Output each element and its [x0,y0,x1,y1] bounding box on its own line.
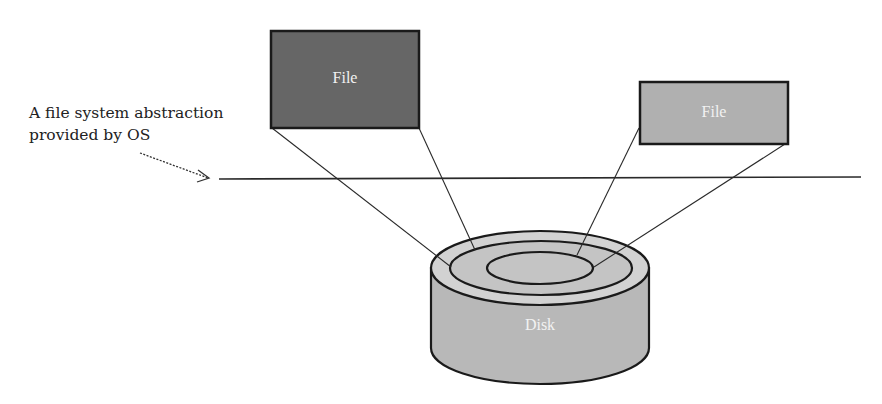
disk-label: Disk [490,316,590,334]
mapping-line [419,128,475,250]
disk-cylinder [431,231,649,384]
annotation-label-line2: provided by OS [29,125,150,146]
file-label-light: File [639,103,789,121]
annotation-label-line1: A file system abstraction [29,103,223,124]
diagram-canvas [0,0,882,404]
file-label-dark: File [270,69,420,87]
dotted-arrow-icon [140,153,209,182]
disk-track-inner [487,252,593,284]
mapping-line [272,128,451,267]
abstraction-line [219,177,861,179]
mapping-line [577,128,639,255]
